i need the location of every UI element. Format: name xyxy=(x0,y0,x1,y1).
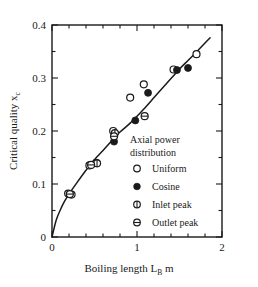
open-circle-icon xyxy=(134,165,141,172)
legend-marker xyxy=(134,201,141,208)
chart-figure: 012 00.10.20.30.4 Axial powerdistributio… xyxy=(0,0,258,287)
data-point xyxy=(193,51,200,58)
legend-title-line1: Axial power xyxy=(130,134,180,145)
y-tick-label: 0.1 xyxy=(32,178,46,190)
legend-title-line2: distribution xyxy=(130,147,176,158)
legend-marker xyxy=(134,165,141,172)
y-tick-label: 0.2 xyxy=(32,125,46,137)
data-point xyxy=(66,191,73,198)
legend-marker xyxy=(134,219,141,226)
open-circle-icon xyxy=(127,94,134,101)
legend-item-label: Uniform xyxy=(152,163,187,174)
data-point xyxy=(127,94,134,101)
y-tick-label: 0 xyxy=(41,231,47,243)
legend-marker xyxy=(134,183,141,190)
open-circle-icon xyxy=(140,81,147,88)
data-point xyxy=(140,81,147,88)
x-tick-label: 1 xyxy=(134,241,140,253)
data-point xyxy=(88,161,95,168)
legend-item-label: Outlet peak xyxy=(152,217,198,228)
y-tick-label: 0.4 xyxy=(32,19,46,31)
data-point xyxy=(141,113,148,120)
legend-item-label: Inlet peak xyxy=(152,199,192,210)
data-point xyxy=(173,67,180,74)
filled-circle-icon xyxy=(134,183,141,190)
x-tick-label: 0 xyxy=(49,241,55,253)
data-point xyxy=(111,133,118,140)
open-circle-icon xyxy=(193,51,200,58)
data-point xyxy=(185,64,192,71)
filled-circle-icon xyxy=(132,117,139,124)
filled-circle-icon xyxy=(185,64,192,71)
x-axis-title-unit: m xyxy=(162,262,174,274)
x-tick-label: 2 xyxy=(219,241,225,253)
filled-circle-icon xyxy=(145,89,152,96)
y-tick-label: 0.3 xyxy=(32,72,46,84)
data-point xyxy=(145,89,152,96)
filled-circle-icon xyxy=(173,67,180,74)
data-point xyxy=(132,117,139,124)
critical-quality-vs-boiling-length-chart: 012 00.10.20.30.4 Axial powerdistributio… xyxy=(0,0,258,287)
legend-item-label: Cosine xyxy=(152,181,180,192)
